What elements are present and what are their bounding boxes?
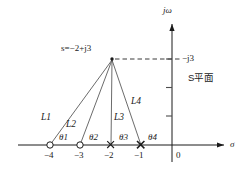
vector-label-L4: L4 (131, 97, 141, 107)
vector-label-L3: L3 (114, 113, 124, 123)
imaginary-axis-label: jω (163, 6, 172, 15)
vector-label-L2: L2 (66, 120, 76, 130)
imaginary-axis-arrowhead (169, 24, 174, 31)
test-point-marker (110, 57, 113, 60)
s-plane-pole-zero-figure: jω σ −j3 S平面 s=−2+j3 L1 L2 L3 L4 θ1 θ2 θ… (0, 0, 245, 178)
angle-label-theta3: θ3 (119, 133, 128, 142)
zero-marker-minus4 (47, 142, 53, 148)
vector-L3 (111, 60, 112, 145)
test-point-label: s=−2+j3 (61, 44, 91, 53)
angle-label-theta4: θ4 (148, 133, 157, 142)
imaginary-axis-ticks (166, 59, 172, 116)
angle-label-theta1: θ1 (59, 133, 68, 142)
real-axis-arrowhead (217, 142, 224, 147)
angle-label-theta2: θ2 (89, 133, 98, 142)
tick-label-minus2: −2 (104, 151, 114, 160)
tick-label-minus3: −3 (74, 151, 84, 160)
tick-label-minus4: −4 (44, 151, 54, 160)
vector-label-L1: L1 (41, 113, 51, 123)
zero-marker-minus3 (77, 142, 83, 148)
imaginary-axis-group (169, 24, 174, 162)
tick-label-minus1: −1 (134, 151, 144, 160)
real-axis-label: σ (230, 140, 234, 149)
s-plane-label: S平面 (188, 73, 214, 83)
pole-zero-plot-canvas (0, 0, 245, 178)
tick-label-origin: 0 (176, 151, 181, 160)
tick-label-j3: −j3 (182, 54, 194, 63)
